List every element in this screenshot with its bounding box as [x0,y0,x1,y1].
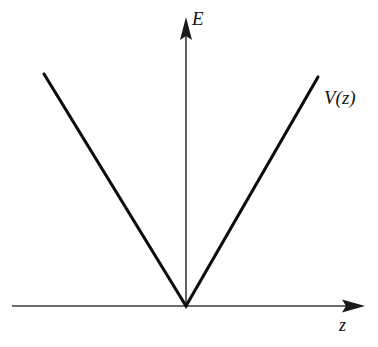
horizontal-axis-label: z [339,316,346,334]
vertical-axis-label: E [192,9,204,28]
potential-diagram-figure: E V(z) z [0,0,378,347]
potential-curve-label: V(z) [324,88,356,107]
potential-diagram-canvas [0,0,378,347]
potential-curve [44,74,318,306]
